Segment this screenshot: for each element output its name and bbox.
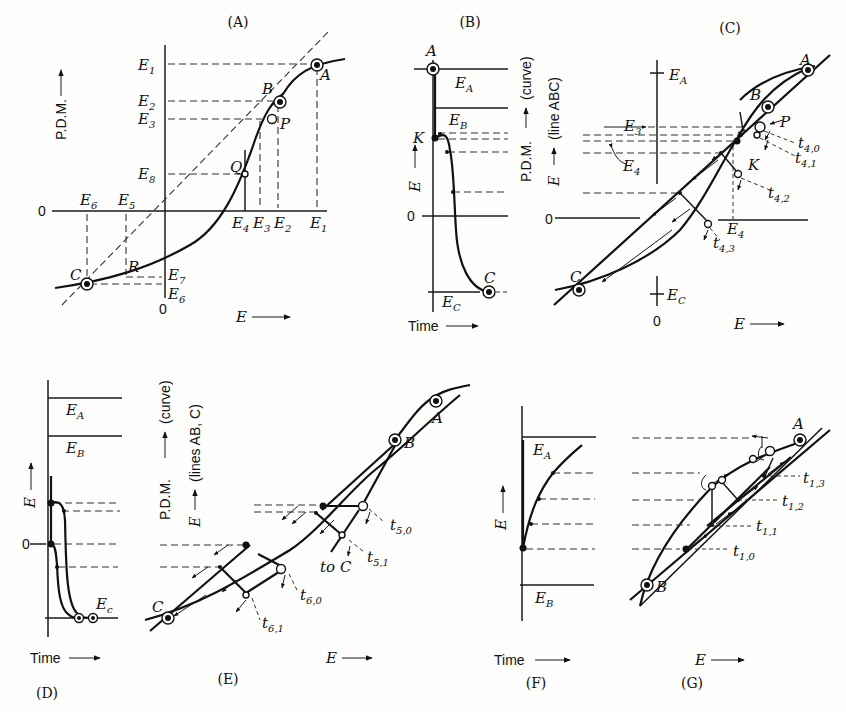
svg-text:B: B <box>749 86 761 104</box>
svg-text:C: C <box>70 266 82 284</box>
svg-text:E: E <box>546 176 562 187</box>
svg-text:E6: E6 <box>79 191 98 211</box>
svg-text:E: E <box>325 649 337 667</box>
svg-text:Q: Q <box>230 158 242 176</box>
svg-text:C: C <box>340 558 352 576</box>
panel-g-title: (G) <box>681 675 703 691</box>
svg-text:t5,0: t5,0 <box>390 516 413 536</box>
svg-text:B: B <box>403 434 415 452</box>
panel-d-title: (D) <box>36 685 58 701</box>
svg-text:E4: E4 <box>726 220 744 240</box>
svg-text:EA: EA <box>65 401 84 421</box>
time-label: Time <box>408 318 439 334</box>
svg-text:EC: EC <box>441 293 461 313</box>
svg-text:0: 0 <box>22 536 30 552</box>
svg-text:0: 0 <box>545 211 553 227</box>
point-p <box>755 122 765 132</box>
svg-text:EA: EA <box>532 441 551 461</box>
svg-text:Ec: Ec <box>95 595 113 615</box>
point-k <box>734 138 741 145</box>
svg-text:0: 0 <box>159 301 167 317</box>
panel-e: (E) P.D.M. (curve) E (lines AB, C) <box>145 380 470 687</box>
panel-a: (A) P.D.M. 0 0 A B <box>38 14 345 326</box>
panel-b-title: (B) <box>459 14 480 30</box>
svg-text:t6,1: t6,1 <box>262 614 284 634</box>
svg-text:Time: Time <box>30 650 61 666</box>
point-b <box>392 437 398 443</box>
panel-f: (F) EA EB E Time <box>492 406 596 691</box>
point-c <box>576 287 582 293</box>
svg-text:EA: EA <box>668 66 687 86</box>
svg-text:E1: E1 <box>309 214 327 234</box>
svg-text:(lines AB, C): (lines AB, C) <box>187 404 203 482</box>
svg-text:B: B <box>261 80 273 98</box>
panel-f-title: (F) <box>526 675 547 691</box>
svg-text:E3: E3 <box>623 117 641 137</box>
svg-text:0: 0 <box>407 208 415 224</box>
svg-text:E3: E3 <box>137 110 155 130</box>
point-b <box>277 99 283 105</box>
panel-a-ylabel: P.D.M. <box>53 99 69 140</box>
svg-text:EC: EC <box>666 286 686 306</box>
point-b <box>644 582 650 588</box>
svg-text:t1,2: t1,2 <box>782 492 804 512</box>
svg-text:E7: E7 <box>167 266 186 286</box>
svg-text:E1: E1 <box>137 56 155 76</box>
point-q <box>242 171 248 177</box>
svg-text:EB: EB <box>65 439 84 459</box>
point-p <box>268 115 277 124</box>
electrochemistry-figure: (A) P.D.M. 0 0 A B <box>0 0 846 712</box>
svg-text:A: A <box>430 409 443 427</box>
svg-text:t5,1: t5,1 <box>367 548 389 568</box>
point-b <box>765 104 771 110</box>
svg-text:E4: E4 <box>231 214 249 234</box>
svg-text:EB: EB <box>534 589 553 609</box>
svg-text:C: C <box>570 268 582 286</box>
panel-g: (G) <box>630 415 830 691</box>
svg-text:P.D.M.: P.D.M. <box>518 141 534 182</box>
svg-text:E: E <box>21 497 39 509</box>
svg-text:t1,3: t1,3 <box>803 469 825 489</box>
svg-text:E3: E3 <box>252 214 270 234</box>
potential-time-curve <box>435 135 490 292</box>
svg-text:P: P <box>279 115 291 133</box>
diagonal-line <box>62 30 330 305</box>
svg-text:E2: E2 <box>273 214 291 234</box>
svg-text:R: R <box>127 258 139 276</box>
svg-text:P: P <box>779 113 791 131</box>
svg-text:t1,0: t1,0 <box>733 542 756 562</box>
svg-text:t1,1: t1,1 <box>756 517 778 537</box>
point-c <box>84 281 90 287</box>
svg-text:P.D.M.: P.D.M. <box>53 99 69 140</box>
svg-text:E: E <box>694 651 706 669</box>
svg-text:t4,2: t4,2 <box>768 184 790 204</box>
svg-text:Time: Time <box>494 652 525 668</box>
panel-d: (D) EA EB Ec 0 E Time <box>21 380 122 701</box>
svg-text:E6: E6 <box>167 285 186 305</box>
panel-e-title: (E) <box>217 671 238 687</box>
svg-text:E: E <box>492 519 510 531</box>
svg-text:(line ABC): (line ABC) <box>546 77 562 140</box>
svg-text:K: K <box>412 129 425 147</box>
svg-text:E4: E4 <box>622 157 640 177</box>
svg-text:0: 0 <box>38 203 46 219</box>
panel-a-title: (A) <box>227 14 248 30</box>
svg-text:E: E <box>235 308 247 326</box>
svg-text:A: A <box>318 66 331 84</box>
point-k <box>432 135 439 142</box>
svg-text:0: 0 <box>653 313 661 329</box>
svg-text:A: A <box>791 415 804 433</box>
point-c <box>486 289 492 295</box>
point-c <box>165 615 171 621</box>
svg-text:t6,0: t6,0 <box>300 586 323 606</box>
panel-b: (B) A K C EA EB EC 0 E Time <box>406 14 508 334</box>
svg-text:E8: E8 <box>137 165 155 185</box>
svg-text:E5: E5 <box>117 191 135 211</box>
svg-text:(curve): (curve) <box>157 380 173 424</box>
svg-text:E2: E2 <box>137 92 155 112</box>
svg-text:B: B <box>655 578 667 596</box>
svg-text:C: C <box>484 269 496 287</box>
svg-text:EA: EA <box>454 74 473 94</box>
svg-text:A: A <box>798 51 811 69</box>
svg-text:E: E <box>187 517 203 528</box>
